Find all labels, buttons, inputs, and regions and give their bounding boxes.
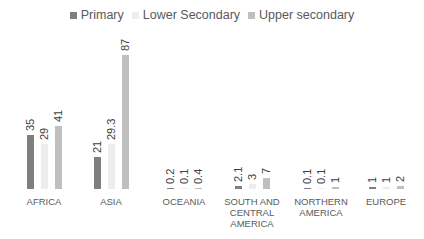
category-label: SOUTH ANDCENTRALAMERICA <box>212 196 292 229</box>
category-label-line: AMERICA <box>281 207 361 218</box>
data-label: 2.1 <box>233 166 244 181</box>
data-label: 1 <box>381 177 392 183</box>
category-label: EUROPE <box>346 196 424 207</box>
data-label: 1 <box>330 177 341 183</box>
data-label: 29 <box>39 128 50 140</box>
data-label: 0.4 <box>193 169 204 184</box>
bar <box>332 187 339 189</box>
data-label: 0.1 <box>179 169 190 184</box>
data-label: 29.3 <box>106 118 117 139</box>
bar <box>181 188 188 189</box>
bar <box>27 135 34 189</box>
data-label: 1 <box>367 177 378 183</box>
data-label: 41 <box>53 110 64 122</box>
bar <box>318 188 325 189</box>
bar <box>167 188 174 189</box>
bar <box>41 144 48 189</box>
bar <box>94 157 101 189</box>
bar <box>369 187 376 189</box>
category-label-line: ASIA <box>71 196 151 207</box>
data-label: 35 <box>25 119 36 131</box>
category-label-line: SOUTH AND <box>212 196 292 207</box>
bar <box>55 126 62 189</box>
bar-chart-plot: 352941AFRICA2129.387ASIA0.20.10.4OCEANIA… <box>0 0 424 239</box>
category-label-line: CENTRAL <box>212 207 292 218</box>
data-label: 0.1 <box>302 169 313 184</box>
bar <box>195 188 202 189</box>
bar <box>108 144 115 189</box>
data-label: 21 <box>92 140 103 152</box>
bar <box>304 188 311 189</box>
data-label: 87 <box>120 39 131 51</box>
data-label: 7 <box>261 168 272 174</box>
data-label: 2 <box>395 176 406 182</box>
bar <box>263 178 270 189</box>
category-label: ASIA <box>71 196 151 207</box>
data-label: 0.2 <box>165 169 176 184</box>
bar <box>383 187 390 189</box>
category-label-line: EUROPE <box>346 196 424 207</box>
bar <box>249 184 256 189</box>
bar <box>397 186 404 189</box>
bar <box>235 186 242 189</box>
data-label: 3 <box>247 174 258 180</box>
data-label: 0.1 <box>316 169 327 184</box>
bar <box>122 55 129 189</box>
category-label-line: AMERICA <box>212 218 292 229</box>
